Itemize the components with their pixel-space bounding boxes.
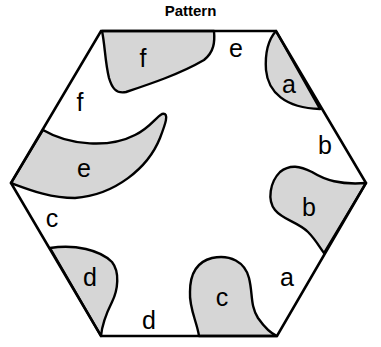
- edge-label-a: a: [280, 263, 294, 291]
- blob-label-e: e: [77, 154, 91, 182]
- edge-label-e: e: [229, 34, 243, 62]
- blob-label-d: d: [83, 263, 97, 291]
- blob-c: [190, 257, 277, 336]
- edge-label-b: b: [318, 131, 332, 159]
- blob-label-a: a: [282, 70, 296, 98]
- blob-f: [102, 31, 214, 92]
- edge-label-c: c: [46, 204, 59, 232]
- blob-label-b: b: [302, 193, 316, 221]
- blob-label-f: f: [140, 44, 147, 72]
- blob-d: [50, 247, 117, 336]
- edge-label-f: f: [77, 88, 84, 116]
- edge-label-d: d: [142, 306, 156, 334]
- blob-label-c: c: [216, 283, 229, 311]
- pattern-diagram: f a e b d c e f b c a d: [0, 0, 381, 347]
